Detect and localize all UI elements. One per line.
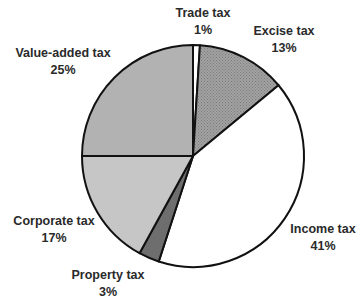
label-name: Excise tax (244, 23, 324, 40)
label-name: Value-added tax (10, 45, 116, 62)
label-value: 41% (285, 238, 361, 255)
label-corporate-tax: Corporate tax 17% (8, 213, 100, 247)
label-value: 3% (63, 284, 153, 301)
label-name: Property tax (63, 267, 153, 284)
label-excise-tax: Excise tax 13% (244, 23, 324, 57)
label-property-tax: Property tax 3% (63, 267, 153, 301)
label-trade-tax: Trade tax 1% (168, 5, 238, 39)
label-value: 13% (244, 40, 324, 57)
label-value-added-tax: Value-added tax 25% (10, 45, 116, 79)
label-name: Trade tax (168, 5, 238, 22)
label-value: 1% (168, 22, 238, 39)
label-income-tax: Income tax 41% (285, 221, 361, 255)
label-name: Income tax (285, 221, 361, 238)
label-value: 25% (10, 62, 116, 79)
label-value: 17% (8, 230, 100, 247)
label-name: Corporate tax (8, 213, 100, 230)
